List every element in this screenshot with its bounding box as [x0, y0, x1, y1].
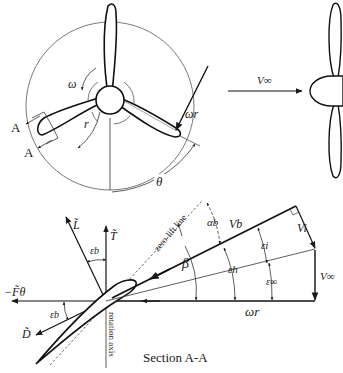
spinner [310, 76, 343, 106]
theta-ref-line [180, 136, 200, 146]
thrust-label: T̃ [110, 229, 118, 243]
radius-label: r [84, 117, 89, 131]
eps-b-lift-arc [87, 260, 106, 262]
eps-b-drag-label: εb [50, 309, 59, 320]
freestream-label: V∞ [257, 74, 272, 86]
freestream-resultant-line [106, 249, 315, 301]
rotation-axis-label: rotation axis [107, 312, 117, 357]
front-view: ω r A A ωr θ [11, 4, 208, 192]
eps-b-drag-arc [64, 302, 68, 320]
zero-lift-label: zero-lift line [152, 213, 188, 254]
eps-i-label: εi [261, 239, 268, 251]
alpha-b-label: αb [207, 216, 219, 228]
section-mark-top: A [11, 120, 21, 135]
theta-arc [112, 144, 195, 192]
v-b-label: Vb [229, 217, 242, 231]
omega-label: ω [68, 77, 76, 91]
drag-label: D̃ [21, 327, 31, 341]
blade-right [120, 99, 180, 137]
v-inf-label: V∞ [320, 270, 335, 282]
hub [96, 86, 124, 114]
side-blade-top [329, 3, 341, 78]
omega-r-section-label: ωr [245, 304, 260, 319]
rotation-arc-lower-left [92, 112, 98, 122]
beta-label: β [181, 256, 189, 271]
eps-inf-label: ε∞ [266, 276, 277, 287]
tangential-force-label: −F̃θ [4, 285, 25, 299]
beta-arc [185, 246, 196, 300]
theta-label: θ [156, 174, 163, 189]
omega-arrow [82, 68, 96, 90]
eps-h-label: εh [228, 263, 238, 275]
section-view: −F̃θ T̃ rotation axis L̃ εb D̃ εb zero-l… [4, 201, 335, 368]
lift-arrow [66, 217, 106, 301]
section-mark-bottom: A [24, 145, 34, 160]
section-caption: Section A-A [143, 350, 208, 365]
lift-label: L̃ [72, 218, 80, 232]
propeller-blade-element-diagram: ω r A A ωr θ V∞ −F̃θ T̃ [0, 0, 343, 373]
v-i-label: Vi [297, 221, 307, 235]
rotation-arc-bottom [114, 116, 130, 124]
omega-r-label: ωr [185, 107, 198, 121]
radius-arc [78, 112, 100, 148]
blade-top [104, 4, 116, 94]
resultant-velocity-arrow [150, 269, 170, 279]
side-view: V∞ [228, 3, 343, 177]
side-blade-bottom [329, 104, 341, 178]
section-arrow-bottom [38, 140, 52, 148]
eps-b-lift-label: εb [90, 245, 99, 256]
